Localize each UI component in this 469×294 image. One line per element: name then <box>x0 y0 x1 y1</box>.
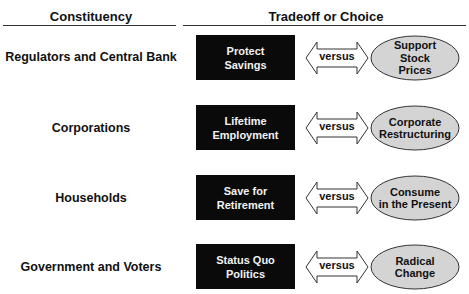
alternative-ellipse-2: Corporate Restructuring <box>370 105 460 151</box>
alternative-line: Restructuring <box>379 128 451 141</box>
alternative-ellipse-1: Support Stock Prices <box>370 35 460 81</box>
choice-line: Politics <box>226 267 265 281</box>
header-underline-constituency <box>3 25 176 26</box>
choice-line: Savings <box>224 58 266 72</box>
constituency-row-3: Households <box>0 191 182 205</box>
alternative-line: Consume <box>390 186 440 199</box>
alternative-line: Prices <box>398 64 431 77</box>
constituency-row-1: Regulators and Central Bank <box>0 50 182 64</box>
header-tradeoff: Tradeoff or Choice <box>183 9 469 24</box>
versus-arrow-1: versus <box>305 41 369 75</box>
choice-box-2: Lifetime Employment <box>196 105 295 150</box>
alternative-ellipse-4: Radical Change <box>370 244 460 290</box>
header-constituency: Constituency <box>0 9 182 24</box>
choice-box-4: Status Quo Politics <box>196 244 295 289</box>
choice-box-3: Save for Retirement <box>196 175 295 220</box>
versus-label: versus <box>305 190 369 202</box>
alternative-line: Corporate <box>389 116 442 129</box>
choice-line: Lifetime <box>224 114 266 128</box>
choice-line: Status Quo <box>216 253 275 267</box>
choice-line: Save for <box>224 184 267 198</box>
versus-arrow-4: versus <box>305 250 369 284</box>
choice-box-1: Protect Savings <box>196 35 295 80</box>
alternative-ellipse-3: Consume in the Present <box>370 175 460 221</box>
alternative-line: Support <box>394 39 436 52</box>
versus-arrow-2: versus <box>305 111 369 145</box>
versus-label: versus <box>305 259 369 271</box>
constituency-row-2: Corporations <box>0 121 182 135</box>
choice-line: Retirement <box>217 198 274 212</box>
alternative-line: Change <box>395 267 435 280</box>
constituency-row-4: Government and Voters <box>0 260 182 274</box>
alternative-line: in the Present <box>379 198 452 211</box>
choice-line: Employment <box>212 128 278 142</box>
alternative-line: Radical <box>395 255 434 268</box>
alternative-line: Stock <box>400 52 430 65</box>
choice-line: Protect <box>227 44 265 58</box>
versus-arrow-3: versus <box>305 181 369 215</box>
header-underline-tradeoff <box>183 25 466 26</box>
versus-label: versus <box>305 50 369 62</box>
versus-label: versus <box>305 120 369 132</box>
